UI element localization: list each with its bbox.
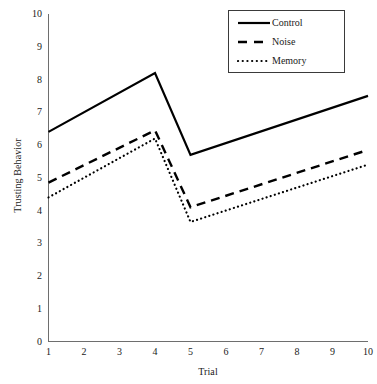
chart-figure: Trusting Behavior Trial 012345678910 123… bbox=[0, 0, 377, 384]
series-line-control bbox=[49, 73, 369, 155]
data-series-group bbox=[49, 73, 369, 222]
legend-entry-memory: Memory bbox=[237, 53, 306, 69]
legend-label-control: Control bbox=[271, 18, 303, 28]
legend-label-noise: Noise bbox=[271, 37, 295, 47]
series-line-noise bbox=[49, 130, 369, 207]
legend-line-solid-icon bbox=[237, 18, 271, 28]
legend-entry-noise: Noise bbox=[237, 34, 295, 50]
legend-line-dashed-icon bbox=[237, 37, 271, 47]
legend-entry-control: Control bbox=[237, 15, 303, 31]
legend: Control Noise Memory bbox=[228, 10, 345, 73]
series-line-memory bbox=[49, 138, 369, 222]
legend-line-dotted-icon bbox=[237, 56, 271, 66]
legend-label-memory: Memory bbox=[271, 56, 306, 66]
